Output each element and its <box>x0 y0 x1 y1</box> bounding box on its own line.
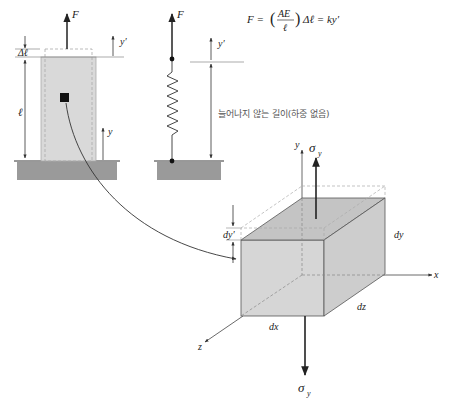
sigma-top-label: σ <box>309 140 316 155</box>
ground-bar <box>17 162 117 180</box>
svg-text:F =: F = <box>246 13 264 25</box>
axis-x-label: x <box>433 269 439 280</box>
spring-coil <box>167 61 178 161</box>
dim-dz-label: dz <box>357 301 366 312</box>
dim-dx-label: dx <box>269 321 279 332</box>
equation: F = ( AE ℓ ) Δℓ = ky′ <box>246 8 340 33</box>
length-label: ℓ <box>18 106 23 118</box>
svg-text:Δℓ = ky′: Δℓ = ky′ <box>302 13 340 25</box>
force-label-spring: F <box>176 8 184 20</box>
cube-front <box>241 240 324 316</box>
ground-spring <box>157 162 221 180</box>
y-prime-label-bar: y′ <box>119 36 127 47</box>
bar-body <box>41 57 96 161</box>
sigma-bottom-label: σ <box>298 380 305 395</box>
element-square <box>60 93 69 102</box>
diagram-canvas: F Δℓ ℓ y′ y F y′ 늘어나지 않는 길이(하중 없음) F = (… <box>0 0 449 403</box>
unstretched-length-label: 늘어나지 않는 길이(하중 없음) <box>218 109 330 119</box>
svg-text:ℓ: ℓ <box>283 22 287 33</box>
bar-specimen <box>14 14 124 180</box>
y-prime-label-spring: y′ <box>217 38 225 49</box>
delta-l-label: Δℓ <box>17 47 28 58</box>
svg-text:AE: AE <box>277 8 290 19</box>
axis-z-label: z <box>197 341 202 352</box>
axis-y-label: y <box>294 139 300 150</box>
svg-text:(: ( <box>270 10 275 28</box>
force-label-bar: F <box>71 8 79 20</box>
dim-dy-prime-label: dy′ <box>223 229 235 240</box>
svg-text:): ) <box>295 10 300 28</box>
sigma-top-sub: y <box>317 149 322 158</box>
sigma-bottom-sub: y <box>306 389 311 398</box>
spring-model <box>154 14 244 180</box>
y-label-bar: y <box>107 126 113 137</box>
dim-dy-label: dy <box>394 229 404 240</box>
stress-cube <box>205 150 432 375</box>
